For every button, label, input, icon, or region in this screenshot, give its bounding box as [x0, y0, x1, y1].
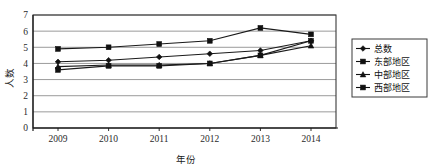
x-tick-label: 2014 [302, 134, 321, 144]
data-point-marker [157, 63, 162, 68]
legend-item-label: 东部地区 [374, 56, 410, 67]
data-point-marker [56, 47, 61, 52]
y-axis-tick-labels: 01234567 [23, 10, 28, 133]
data-series-group [55, 26, 314, 73]
data-point-marker [207, 38, 212, 43]
data-point-marker [156, 54, 162, 60]
legend-item-label: 西部地区 [374, 82, 410, 93]
data-point-marker [207, 61, 212, 66]
data-point-marker [106, 63, 111, 68]
legend-item-label: 中部地区 [374, 69, 410, 80]
data-point-marker [157, 42, 162, 47]
data-point-marker [258, 53, 263, 58]
chart-container: 01234567 200920102011201220132014 人数 年份 … [0, 0, 432, 168]
data-point-marker [308, 43, 314, 48]
data-point-marker [361, 85, 366, 90]
line-chart: 01234567 200920102011201220132014 人数 年份 … [0, 0, 432, 168]
data-point-marker [56, 67, 61, 72]
y-tick-label: 4 [23, 59, 28, 69]
x-tick-label: 2013 [251, 134, 270, 144]
y-tick-label: 0 [23, 123, 28, 133]
y-tick-label: 6 [23, 27, 28, 37]
data-point-marker [258, 26, 263, 31]
legend-item-label: 总数 [374, 43, 392, 54]
data-point-marker [361, 59, 366, 64]
x-tick-label: 2009 [49, 134, 68, 144]
y-tick-label: 1 [23, 107, 28, 117]
y-tick-label: 2 [23, 91, 28, 101]
data-point-marker [309, 32, 314, 37]
x-axis-tick-labels: 200920102011201220132014 [49, 128, 321, 144]
x-tick-label: 2011 [150, 134, 169, 144]
data-point-marker [207, 51, 213, 57]
y-tick-label: 3 [23, 75, 28, 85]
data-point-marker [106, 45, 111, 50]
y-tick-label: 5 [23, 43, 28, 53]
x-tick-label: 2010 [99, 134, 118, 144]
data-point-marker [309, 38, 314, 43]
y-tick-label: 7 [23, 10, 28, 20]
chart-legend: 总数东部地区中部地区西部地区 [352, 39, 427, 97]
x-axis-title: 年份 [176, 154, 196, 165]
x-tick-label: 2012 [200, 134, 219, 144]
y-axis-title: 人数 [4, 68, 15, 88]
